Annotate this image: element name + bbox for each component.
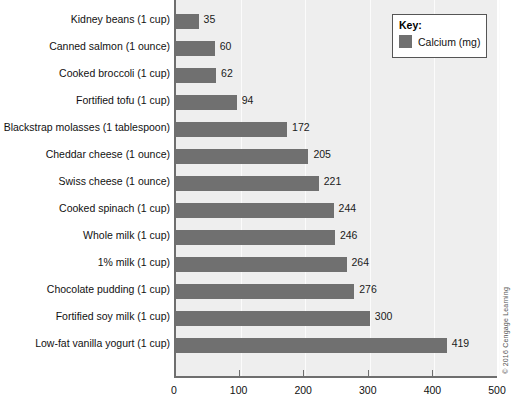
x-axis-tick <box>239 370 240 377</box>
bar <box>176 149 308 164</box>
bar-row: 244 <box>176 197 497 224</box>
bar-value-label: 221 <box>324 174 342 189</box>
bar-value-label: 246 <box>340 228 358 243</box>
bar-value-label: 94 <box>242 93 254 108</box>
category-label: Fortified tofu (1 cup) <box>0 93 170 108</box>
bar-value-label: 276 <box>359 282 377 297</box>
legend: Key: Calcium (mg) <box>392 14 487 58</box>
x-axis-tick-label: 500 <box>488 384 506 396</box>
bar-value-label: 60 <box>220 39 232 54</box>
bar-value-label: 35 <box>204 12 216 27</box>
bar-row: 221 <box>176 170 497 197</box>
bar <box>176 176 319 191</box>
bar-value-label: 264 <box>352 255 370 270</box>
bar <box>176 257 347 272</box>
x-axis-tick-label: 300 <box>359 384 377 396</box>
bar <box>176 203 334 218</box>
bar-row: 419 <box>176 332 497 359</box>
legend-title: Key: <box>399 19 480 32</box>
bar-row: 94 <box>176 89 497 116</box>
category-label: Blackstrap molasses (1 tablespoon) <box>0 120 170 135</box>
x-axis: 0100200300400500 <box>174 378 497 413</box>
legend-swatch-icon <box>399 35 412 48</box>
category-label: Cheddar cheese (1 ounce) <box>0 147 170 162</box>
bar <box>176 41 215 56</box>
bar-row: 276 <box>176 278 497 305</box>
category-label: Fortified soy milk (1 cup) <box>0 309 170 324</box>
x-axis-tick <box>432 370 433 377</box>
x-axis-tick <box>368 370 369 377</box>
bar <box>176 311 370 326</box>
gridline <box>499 0 500 376</box>
copyright-credit: © 2016 Cengage Learning <box>502 287 509 374</box>
category-label: Canned salmon (1 ounce) <box>0 39 170 54</box>
bar-row: 172 <box>176 116 497 143</box>
bar <box>176 68 216 83</box>
bar <box>176 284 354 299</box>
category-label: Swiss cheese (1 ounce) <box>0 174 170 189</box>
calcium-bar-chart: 35606294172205221244246264276300419 Kidn… <box>0 0 520 413</box>
x-axis-tick-label: 200 <box>294 384 312 396</box>
bar-value-label: 205 <box>313 147 331 162</box>
x-axis-tick-label: 100 <box>230 384 248 396</box>
bar-row: 62 <box>176 62 497 89</box>
legend-entry-calcium: Calcium (mg) <box>399 35 480 48</box>
bar-row: 264 <box>176 251 497 278</box>
bar <box>176 122 287 137</box>
category-label: Kidney beans (1 cup) <box>0 12 170 27</box>
bar-row: 246 <box>176 224 497 251</box>
bar-row: 300 <box>176 305 497 332</box>
bar-value-label: 244 <box>339 201 357 216</box>
bar <box>176 95 237 110</box>
bar-value-label: 172 <box>292 120 310 135</box>
category-label: Whole milk (1 cup) <box>0 228 170 243</box>
category-label: 1% milk (1 cup) <box>0 255 170 270</box>
bar-value-label: 62 <box>221 66 233 81</box>
bar-value-label: 419 <box>452 336 470 351</box>
bar <box>176 230 335 245</box>
x-axis-tick-label: 400 <box>424 384 442 396</box>
category-label: Cooked spinach (1 cup) <box>0 201 170 216</box>
legend-entry-label: Calcium (mg) <box>418 36 480 48</box>
bar-value-label: 300 <box>375 309 393 324</box>
x-axis-tick-label: 0 <box>171 384 177 396</box>
category-axis-labels: Kidney beans (1 cup)Canned salmon (1 oun… <box>0 0 170 378</box>
bar <box>176 338 447 353</box>
category-label: Cooked broccoli (1 cup) <box>0 66 170 81</box>
x-axis-tick <box>303 370 304 377</box>
category-label: Low-fat vanilla yogurt (1 cup) <box>0 336 170 351</box>
bar-row: 205 <box>176 143 497 170</box>
category-label: Chocolate pudding (1 cup) <box>0 282 170 297</box>
bar <box>176 14 199 29</box>
